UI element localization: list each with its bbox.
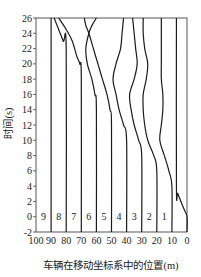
y-tick-label: 20 — [22, 58, 32, 69]
trajectory-vehicle-9 — [54, 18, 66, 232]
lane-label-5: 5 — [101, 211, 106, 222]
trajectory-vehicle-7 — [86, 18, 97, 232]
y-tick-label: 0 — [27, 211, 32, 222]
trajectory-vehicle-1 — [176, 18, 187, 232]
trajectory-chart: -202468101214161820222426 10090807060504… — [0, 0, 201, 277]
y-tick-label: 26 — [22, 13, 32, 24]
x-tick-label: 100 — [29, 235, 44, 246]
x-tick-label: 90 — [46, 235, 56, 246]
x-tick-label: 20 — [152, 235, 162, 246]
y-tick-label: 2 — [27, 196, 32, 207]
x-tick-label: 0 — [185, 235, 190, 246]
vehicle-trajectories — [51, 18, 187, 232]
trajectory-vehicle-8 — [59, 18, 82, 232]
trajectory-vehicle-4 — [130, 18, 142, 232]
y-tick-label: 4 — [27, 181, 32, 192]
lane-label-2: 2 — [147, 211, 152, 222]
lane-label-1: 1 — [162, 211, 167, 222]
x-tick-label: 60 — [91, 235, 101, 246]
y-tick-label: 22 — [22, 43, 32, 54]
x-tick-label: 40 — [122, 235, 132, 246]
y-tick-label: 8 — [27, 150, 32, 161]
y-tick-label: 16 — [22, 89, 32, 100]
trajectory-vehicle-2 — [160, 18, 172, 232]
lane-labels: 987654321 — [41, 211, 167, 222]
y-axis-ticks: -202468101214161820222426 — [22, 13, 36, 238]
x-tick-label: 70 — [76, 235, 86, 246]
y-tick-label: 6 — [27, 165, 32, 176]
trajectory-vehicle-5 — [113, 18, 127, 232]
y-tick-label: 14 — [22, 104, 32, 115]
x-axis-ticks: 1009080706050403020100 — [29, 235, 190, 246]
x-tick-label: 30 — [137, 235, 147, 246]
x-tick-label: 80 — [61, 235, 71, 246]
x-tick-label: 50 — [107, 235, 117, 246]
lane-label-4: 4 — [117, 211, 122, 222]
x-axis-label: 车辆在移动坐标系中的位置(m) — [43, 259, 179, 272]
y-tick-label: 24 — [22, 28, 32, 39]
lane-label-9: 9 — [41, 211, 46, 222]
lane-label-7: 7 — [71, 211, 76, 222]
lane-label-6: 6 — [86, 211, 91, 222]
y-tick-label: 10 — [22, 135, 32, 146]
y-axis-label-group: 时间(s) — [2, 107, 15, 139]
trajectory-vehicle-6 — [84, 18, 111, 232]
lane-label-8: 8 — [56, 211, 61, 222]
y-axis-label: 时间(s) — [2, 107, 15, 139]
trajectory-vehicle-3 — [143, 18, 157, 232]
x-tick-label: 10 — [167, 235, 177, 246]
y-tick-label: 12 — [22, 120, 32, 131]
lane-label-3: 3 — [132, 211, 137, 222]
y-tick-label: 18 — [22, 74, 32, 85]
